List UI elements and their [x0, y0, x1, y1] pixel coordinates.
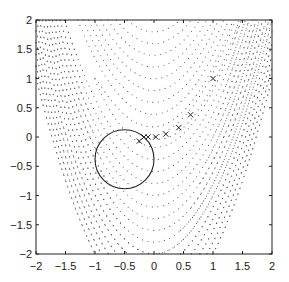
- y-tick-label: 0.5: [17, 102, 32, 114]
- iterate-markers: [137, 76, 216, 144]
- y-tick-label: 0: [26, 131, 32, 143]
- y-tick-label: −1.5: [10, 219, 32, 231]
- x-marker: [163, 131, 168, 136]
- x-tick-label: 1.5: [235, 260, 250, 272]
- contour-lines: [35, 19, 272, 254]
- x-axis-ticks: −2−1.5−1−0.500.511.52: [30, 20, 275, 272]
- x-tick-label: −2: [30, 260, 43, 272]
- y-tick-label: 1.5: [17, 43, 32, 55]
- x-tick-label: 0.5: [176, 260, 191, 272]
- x-tick-label: −1: [89, 260, 102, 272]
- contour-plot: −2−1.5−1−0.500.511.52 21.510.50−0.5−1−1.…: [0, 0, 289, 282]
- x-marker: [176, 125, 181, 130]
- y-tick-label: −1: [19, 190, 32, 202]
- y-tick-label: 2: [26, 14, 32, 26]
- x-tick-label: 0: [151, 260, 157, 272]
- x-tick-label: 2: [269, 260, 275, 272]
- x-marker: [210, 76, 215, 81]
- y-tick-label: 1: [26, 73, 32, 85]
- y-tick-label: −2: [19, 248, 32, 260]
- x-tick-label: −0.5: [114, 260, 136, 272]
- y-tick-label: −0.5: [10, 160, 32, 172]
- x-marker: [146, 134, 151, 139]
- x-marker: [188, 112, 193, 117]
- x-tick-label: 1: [210, 260, 216, 272]
- x-tick-label: −1.5: [55, 260, 77, 272]
